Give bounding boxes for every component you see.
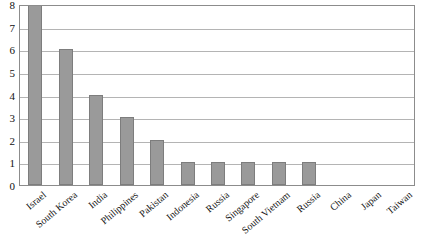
y-axis-tick-label: 3 <box>10 113 16 124</box>
bar <box>241 162 255 185</box>
y-axis-tick-label: 4 <box>10 90 16 101</box>
bar <box>150 140 164 185</box>
bar-slot <box>50 6 80 185</box>
bar <box>181 162 195 185</box>
x-axis-tick-labels: IsraelSouth KoreaIndiaPhilippinesPakista… <box>19 187 415 251</box>
bar-slot <box>111 6 141 185</box>
x-axis-tick-label: China <box>328 189 353 213</box>
bar-series <box>20 6 414 185</box>
bar <box>272 162 286 185</box>
y-axis-tick-label: 5 <box>10 67 16 78</box>
bar-slot <box>20 6 50 185</box>
y-axis-tick-label: 7 <box>10 22 16 33</box>
bar-slot <box>203 6 233 185</box>
y-axis-tick-label: 6 <box>10 45 16 56</box>
bar <box>28 5 42 185</box>
bar <box>89 95 103 186</box>
bar-slot <box>355 6 385 185</box>
x-axis-tick-label: Israel <box>24 189 48 212</box>
bar <box>120 117 134 185</box>
bar <box>211 162 225 185</box>
bar-chart: 012345678 IsraelSouth KoreaIndiaPhilippi… <box>0 0 427 251</box>
x-axis-tick-label: Japan <box>359 189 384 212</box>
bar-slot <box>172 6 202 185</box>
bar-slot <box>294 6 324 185</box>
y-axis-tick-labels: 012345678 <box>0 0 18 186</box>
bar-slot <box>142 6 172 185</box>
bar <box>59 49 73 185</box>
x-axis-tick-label: Indonesia <box>164 189 201 222</box>
y-axis-tick-label: 0 <box>10 181 16 192</box>
y-axis-tick-label: 2 <box>10 135 16 146</box>
bar-slot <box>386 6 415 185</box>
bar-slot <box>325 6 355 185</box>
plot-area <box>19 5 415 186</box>
x-axis-tick-label: Russia <box>295 189 323 215</box>
bar-slot <box>233 6 263 185</box>
bar-slot <box>264 6 294 185</box>
x-axis-tick-label: India <box>86 189 109 211</box>
y-axis-tick-label: 1 <box>10 158 16 169</box>
y-axis-tick-label: 8 <box>10 0 16 11</box>
bar-slot <box>81 6 111 185</box>
bar <box>302 162 316 185</box>
x-axis-tick-label: Taiwan <box>384 189 414 216</box>
